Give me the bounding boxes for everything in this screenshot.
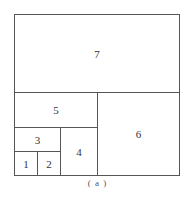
cell-3-label: 3	[35, 134, 41, 146]
cell-7-label: 7	[94, 48, 100, 60]
cell-4: 4	[60, 127, 98, 176]
cell-3: 3	[14, 127, 61, 152]
cell-1: 1	[14, 151, 38, 176]
cell-6: 6	[97, 92, 180, 176]
cell-1-label: 1	[23, 158, 29, 170]
cell-4-label: 4	[76, 146, 82, 158]
cell-7: 7	[14, 14, 180, 93]
cell-6-label: 6	[136, 128, 142, 140]
cell-5: 5	[14, 92, 98, 128]
figure-caption: ( a )	[0, 178, 187, 188]
treemap-diagram: 7 5 6 3 4 1 2 ( a )	[0, 0, 187, 202]
cell-5-label: 5	[53, 104, 59, 116]
cell-2-label: 2	[46, 158, 52, 170]
cell-2: 2	[37, 151, 61, 176]
